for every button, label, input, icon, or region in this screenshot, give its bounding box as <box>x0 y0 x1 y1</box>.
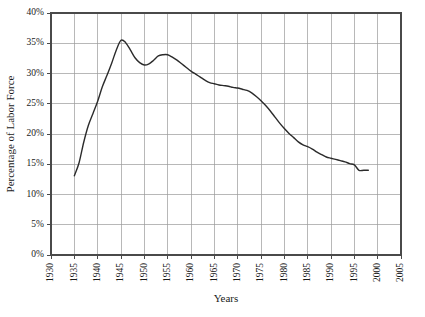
line-chart: 1930193519401945195019551960196519701975… <box>0 0 425 317</box>
y-tick-label: 0% <box>31 249 44 259</box>
y-tick-label: 25% <box>27 98 45 108</box>
x-tick-label: 1950 <box>139 263 149 282</box>
x-tick-label: 1960 <box>185 263 195 282</box>
y-tick-label: 20% <box>27 128 45 138</box>
y-tick-label: 35% <box>27 37 45 47</box>
chart-container: 1930193519401945195019551960196519701975… <box>0 0 425 317</box>
y-axis-title: Percentage of Labor Force <box>4 75 16 192</box>
x-tick-label: 1995 <box>349 263 359 282</box>
x-tick-label: 1990 <box>325 263 335 282</box>
x-tick-label: 1945 <box>115 263 125 282</box>
x-tick-label: 2005 <box>395 263 405 282</box>
y-tick-label: 5% <box>31 219 44 229</box>
x-tick-label: 1965 <box>209 263 219 282</box>
x-tick-label: 1955 <box>162 263 172 282</box>
x-axis-title: Years <box>214 292 239 304</box>
x-tick-label: 1930 <box>45 263 55 282</box>
x-tick-label: 1980 <box>279 263 289 282</box>
x-tick-label: 1970 <box>232 263 242 282</box>
y-tick-label: 15% <box>27 158 45 168</box>
y-tick-label: 40% <box>27 7 45 17</box>
x-tick-label: 1975 <box>255 263 265 282</box>
x-tick-label: 1935 <box>69 263 79 282</box>
y-tick-label: 10% <box>27 189 45 199</box>
x-tick-label: 2000 <box>372 263 382 282</box>
x-tick-label: 1985 <box>302 263 312 282</box>
y-tick-label: 30% <box>27 68 45 78</box>
x-tick-label: 1940 <box>92 263 102 282</box>
